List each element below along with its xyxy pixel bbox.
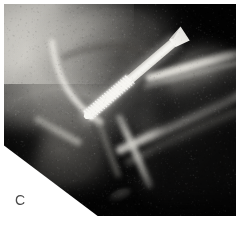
panel-letter-label: C bbox=[15, 193, 25, 207]
radiograph-image bbox=[4, 4, 236, 216]
radiograph-plate bbox=[4, 4, 236, 216]
radiograph-figure: C bbox=[0, 0, 243, 230]
